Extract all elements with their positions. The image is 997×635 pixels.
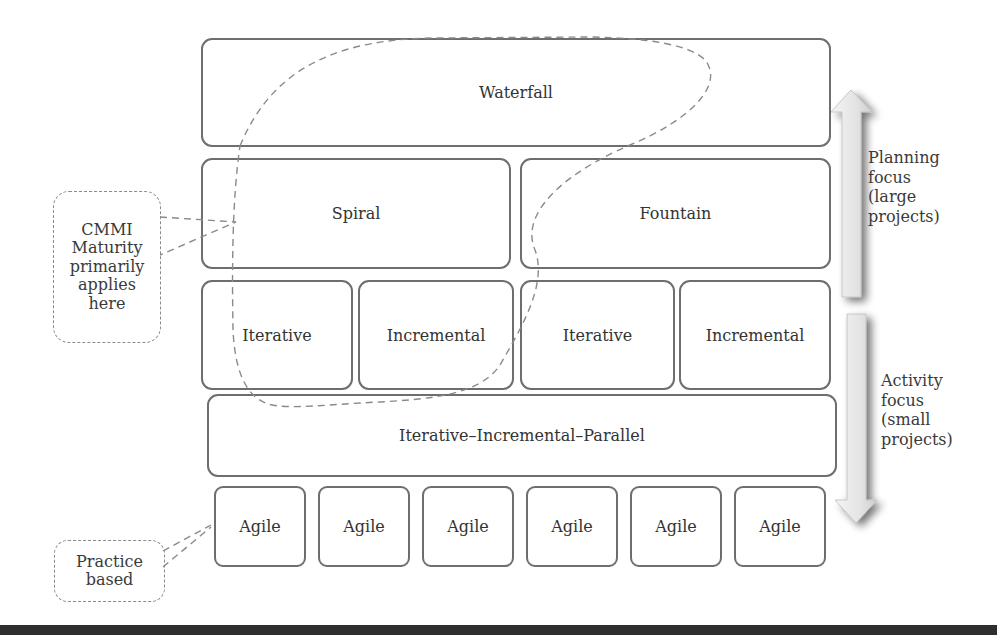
cmmi-callout-line: primarily	[70, 258, 145, 276]
spiral-box: Spiral	[201, 158, 511, 269]
page-bottom-rule	[0, 625, 997, 635]
waterfall-box: Waterfall	[201, 38, 831, 147]
practice-based-callout: Practice based	[54, 540, 165, 602]
cmmi-callout: CMMI Maturity primarily applies here	[53, 191, 161, 343]
cmmi-callout-line: applies	[70, 276, 145, 294]
practice-pointer-line	[163, 525, 211, 567]
practice-callout-line: based	[76, 571, 143, 589]
fountain-label: Fountain	[640, 204, 712, 223]
agile-box-6: Agile	[734, 486, 826, 567]
activity-label-line: (small	[881, 410, 953, 430]
incremental-box-right: Incremental	[679, 280, 831, 390]
cmmi-callout-line: here	[70, 295, 145, 313]
agile-label: Agile	[759, 517, 801, 536]
activity-label-line: projects)	[881, 430, 953, 450]
iterative-label: Iterative	[242, 326, 311, 345]
iterative-incremental-parallel-box: Iterative–Incremental–Parallel	[207, 394, 837, 477]
agile-box-4: Agile	[526, 486, 618, 567]
fountain-box: Fountain	[520, 158, 831, 269]
activity-focus-label: Activity focus (small projects)	[881, 371, 953, 449]
agile-label: Agile	[343, 517, 385, 536]
planning-focus-label: Planning focus (large projects)	[868, 148, 940, 226]
agile-label: Agile	[239, 517, 281, 536]
planning-label-line: (large	[868, 187, 940, 207]
planning-label-line: focus	[868, 168, 940, 188]
planning-label-line: projects)	[868, 207, 940, 227]
spiral-label: Spiral	[332, 204, 381, 223]
agile-label: Agile	[655, 517, 697, 536]
waterfall-label: Waterfall	[479, 83, 553, 102]
activity-label-line: focus	[881, 391, 953, 411]
incremental-box-left: Incremental	[358, 280, 514, 390]
iterative-box-right: Iterative	[520, 280, 675, 390]
activity-down-arrow-icon	[835, 314, 877, 523]
activity-label-line: Activity	[881, 371, 953, 391]
practice-callout-line: Practice	[76, 553, 143, 571]
agile-label: Agile	[447, 517, 489, 536]
incremental-label: Incremental	[706, 326, 805, 345]
cmmi-callout-line: CMMI	[70, 221, 145, 239]
cmmi-callout-line: Maturity	[70, 239, 145, 257]
agile-box-5: Agile	[630, 486, 722, 567]
planning-label-line: Planning	[868, 148, 940, 168]
iterative-label: Iterative	[563, 326, 632, 345]
planning-up-arrow-icon	[831, 90, 872, 297]
iterative-box-left: Iterative	[201, 280, 353, 390]
agile-box-3: Agile	[422, 486, 514, 567]
iip-label: Iterative–Incremental–Parallel	[399, 426, 645, 445]
agile-label: Agile	[551, 517, 593, 536]
agile-box-1: Agile	[214, 486, 306, 567]
agile-box-2: Agile	[318, 486, 410, 567]
incremental-label: Incremental	[387, 326, 486, 345]
